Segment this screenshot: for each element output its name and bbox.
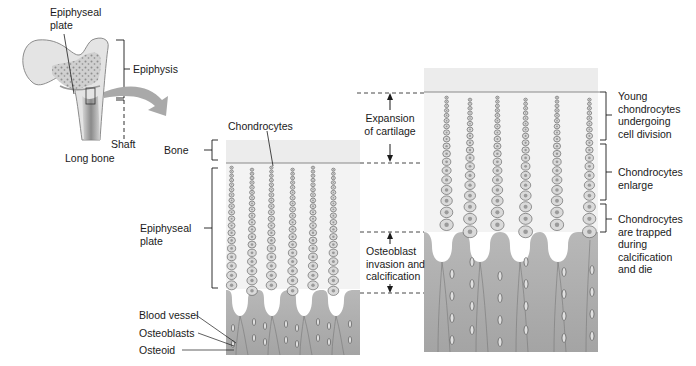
label-chondrocytes: Chondrocytes [228, 120, 293, 133]
label-epiphysis: Epiphysis [133, 63, 178, 76]
diagram-artwork [0, 0, 696, 366]
label-epiphyseal-plate: Epiphyseal plate [140, 222, 191, 247]
label-epiphyseal-plate-inset: Epiphyseal plate [50, 6, 101, 31]
right-growth-plate-panel [424, 68, 612, 352]
label-osteoid: Osteoid [139, 344, 175, 357]
label-young-chondrocytes: Young chondrocytes undergoing cell divis… [618, 90, 680, 140]
label-chondrocytes-trapped: Chondrocytes are trapped during calcific… [618, 213, 683, 276]
label-osteoblasts: Osteoblasts [139, 327, 194, 340]
label-expansion-of-cartilage: Expansion of cartilage [360, 112, 420, 137]
label-long-bone: Long bone [65, 152, 115, 165]
label-chondrocytes-enlarge: Chondrocytes enlarge [618, 166, 683, 191]
long-bone-illustration [23, 34, 168, 140]
label-blood-vessel: Blood vessel [139, 309, 199, 322]
label-osteoblast-invasion: Osteoblast invasion and calcification [366, 245, 425, 283]
label-bone: Bone [164, 144, 189, 157]
label-shaft: Shaft [111, 138, 136, 151]
left-growth-plate-panel [182, 131, 420, 355]
